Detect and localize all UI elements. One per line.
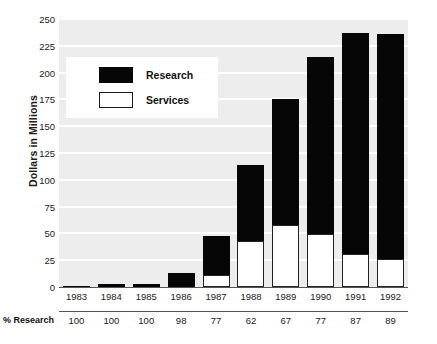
percent-research-value: 100 — [129, 315, 164, 326]
bar-column[interactable] — [203, 236, 230, 287]
bar-segment-services — [307, 234, 334, 287]
y-tick-label: 225 — [3, 40, 55, 51]
percent-research-rule — [59, 311, 408, 312]
y-tick-label: 175 — [3, 94, 55, 105]
percent-research-value: 100 — [94, 315, 129, 326]
bar-segment-services — [237, 241, 264, 287]
services-swatch-icon — [99, 92, 133, 108]
percent-research-value: 100 — [59, 315, 94, 326]
percent-research-value: 62 — [234, 315, 269, 326]
legend-label-services: Services — [146, 94, 189, 106]
legend-item-research: Research — [99, 67, 218, 83]
bar-segment-services — [377, 259, 404, 287]
x-tick-label: 1984 — [94, 291, 129, 302]
bar-segment-research — [342, 33, 369, 254]
y-axis-tick-labels: 0255075100125150175200225250 — [0, 19, 55, 287]
bar-segment-services — [272, 225, 299, 287]
percent-research-label: % Research — [3, 315, 57, 325]
y-tick-label: 100 — [3, 174, 55, 185]
y-tick-label: 250 — [3, 14, 55, 25]
percent-research-value: 77 — [303, 315, 338, 326]
bar-segment-services — [203, 275, 230, 287]
legend-label-research: Research — [146, 69, 193, 81]
x-tick-label: 1990 — [303, 291, 338, 302]
bar-column[interactable] — [307, 57, 334, 287]
bar-column[interactable] — [237, 165, 264, 287]
x-tick-label: 1989 — [268, 291, 303, 302]
y-tick-label: 75 — [3, 201, 55, 212]
bar-column[interactable] — [272, 99, 299, 287]
x-tick-label: 1987 — [199, 291, 234, 302]
x-tick-label: 1985 — [129, 291, 164, 302]
bar-segment-research — [272, 99, 299, 224]
bar-segment-research — [133, 284, 160, 287]
bar-segment-research — [307, 57, 334, 235]
bar-segment-research — [98, 284, 125, 287]
bar-segment-services — [342, 254, 369, 287]
bar-segment-research — [63, 286, 90, 287]
bar-segment-research — [237, 165, 264, 241]
y-tick-label: 125 — [3, 148, 55, 159]
bar-segment-research — [168, 273, 195, 287]
y-tick-label: 150 — [3, 121, 55, 132]
percent-research-value: 98 — [164, 315, 199, 326]
bar-segment-research — [203, 236, 230, 276]
x-axis-tick-labels: 1983198419851986198719881989199019911992 — [59, 291, 408, 307]
x-tick-label: 1992 — [373, 291, 408, 302]
x-tick-label: 1991 — [338, 291, 373, 302]
x-tick-label: 1986 — [164, 291, 199, 302]
x-tick-label: 1983 — [59, 291, 94, 302]
bar-column[interactable] — [63, 286, 90, 287]
percent-research-value: 89 — [373, 315, 408, 326]
percent-research-value: 87 — [338, 315, 373, 326]
bar-segment-research — [377, 34, 404, 259]
x-tick-label: 1988 — [234, 291, 269, 302]
y-tick-label: 200 — [3, 67, 55, 78]
bar-column[interactable] — [168, 273, 195, 287]
percent-research-value: 67 — [268, 315, 303, 326]
percent-research-value: 77 — [199, 315, 234, 326]
bar-column[interactable] — [133, 284, 160, 287]
y-tick-label: 25 — [3, 255, 55, 266]
legend-item-services: Services — [99, 92, 218, 108]
stacked-bar-chart: Dollars in Millions 02550751001251501752… — [0, 0, 437, 344]
percent-research-values: 10010010098776267778789 — [59, 315, 408, 330]
chart-legend: Research Services — [66, 57, 218, 118]
bar-column[interactable] — [98, 284, 125, 287]
research-swatch-icon — [99, 67, 133, 83]
bar-column[interactable] — [377, 34, 404, 287]
x-axis-line — [59, 287, 408, 288]
y-tick-label: 0 — [3, 282, 55, 293]
bar-column[interactable] — [342, 33, 369, 287]
y-tick-label: 50 — [3, 228, 55, 239]
